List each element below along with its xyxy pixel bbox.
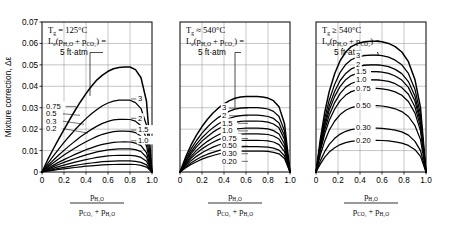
- panel-header-pathlength: Le(pH₂O + pCO₂) =: [322, 36, 380, 47]
- x-axis-label-denominator: pCO₂ + pH₂O: [217, 207, 253, 217]
- y-tick-label: 0.03: [22, 104, 38, 113]
- leader-line-5ftatm: [235, 53, 241, 108]
- x-axis-label-numerator: pH₂O: [90, 192, 104, 202]
- curve-label-3: 3: [356, 51, 360, 60]
- x-tick-label: 0: [314, 176, 319, 185]
- panel-header-pathlength: Le(pH₂O + pCO₂) =: [48, 36, 106, 47]
- x-tick-label: 1.0: [420, 176, 432, 185]
- y-tick-label: 0.06: [22, 39, 38, 48]
- x-tick-label: 0.2: [332, 176, 344, 185]
- curve-label-2: 2: [138, 114, 142, 123]
- curve-label-0.20: 0.20: [356, 136, 371, 145]
- x-tick-label: 0.8: [124, 176, 136, 185]
- y-tick-label: 0.07: [22, 18, 38, 27]
- curve-label-1.5: 1.5: [138, 125, 149, 134]
- x-tick-label: 0.2: [58, 176, 70, 185]
- x-tick-label: 0.6: [376, 176, 388, 185]
- x-axis-label-denominator: pCO₂ + pH₂O: [353, 207, 389, 217]
- y-tick-label: 0.05: [22, 61, 38, 70]
- panel-header-pathlength: Le(pH₂O + pCO₂) =: [186, 36, 244, 47]
- y-tick-label: 0.02: [22, 125, 38, 134]
- panel-header-temperature: Tg ≈ 540°C: [186, 25, 225, 36]
- curve-label-0.75: 0.75: [356, 84, 371, 93]
- panel-header-value: 5 ft·atm: [198, 48, 226, 57]
- curve-label-1.0: 1.0: [138, 136, 149, 145]
- leader-line-5ftatm: [90, 53, 103, 96]
- curve-0.20: [316, 140, 426, 172]
- x-tick-label: 0.4: [80, 176, 92, 185]
- mixture-correction-figure: Mixture correction, Δε00.010.020.030.040…: [0, 0, 455, 243]
- x-axis-label-denominator: pCO₂ + pH₂O: [79, 207, 115, 217]
- panel-3: 00.20.40.60.81.0Tg ≥ 540°CLe(pH₂O + pCO₂…: [314, 22, 432, 217]
- panel-header-temperature: Tg ≥ 540°C: [322, 25, 361, 36]
- curve-label-0.20: 0.20: [222, 157, 237, 166]
- x-tick-label: 0: [178, 176, 183, 185]
- curve-label-leader: [63, 121, 84, 124]
- curve-label-0.50: 0.50: [356, 101, 371, 110]
- x-tick-label: 0.8: [398, 176, 410, 185]
- panel-1: 00.20.40.60.81.0Tg = 125°CLe(pH₂O + pCO₂…: [40, 22, 159, 217]
- x-tick-label: 0.6: [102, 176, 114, 185]
- y-tick-label: 0.04: [22, 82, 38, 91]
- curve-label-0.30: 0.30: [356, 123, 371, 132]
- panel-header-temperature: Tg = 125°C: [48, 25, 88, 36]
- panel-2: 00.20.40.60.81.0Tg ≈ 540°CLe(pH₂O + pCO₂…: [178, 22, 296, 217]
- y-tick-label: 0: [33, 168, 38, 177]
- x-tick-label: 0.8: [262, 176, 274, 185]
- x-tick-label: 0.4: [218, 176, 230, 185]
- x-axis-label-numerator: pH₂O: [228, 192, 242, 202]
- curve-label-0.2: 0.2: [46, 124, 57, 133]
- x-tick-label: 0: [40, 176, 45, 185]
- panel-header-value: 5 ft·atm: [60, 48, 88, 57]
- x-tick-label: 0.4: [354, 176, 366, 185]
- x-tick-label: 0.6: [240, 176, 252, 185]
- x-tick-label: 1.0: [146, 176, 158, 185]
- x-tick-label: 1.0: [284, 176, 296, 185]
- chart-svg: Mixture correction, Δε00.010.020.030.040…: [0, 0, 455, 243]
- y-axis-label: Mixture correction, Δε: [3, 56, 13, 137]
- x-tick-label: 0.2: [196, 176, 208, 185]
- y-tick-label: 0.01: [22, 147, 38, 156]
- curve-label-3: 3: [138, 94, 142, 103]
- x-axis-label-numerator: pH₂O: [364, 192, 378, 202]
